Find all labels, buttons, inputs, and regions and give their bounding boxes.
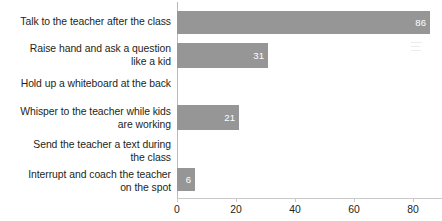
category-label-1: Talk to the teacher after the class: [0, 15, 171, 28]
category-label-6-line-2: on the spot: [0, 181, 171, 194]
x-tick-label-1: 20: [230, 203, 242, 216]
category-label-5: Send the teacher a text during the class: [0, 138, 171, 164]
category-axis-labels: Talk to the teacher after the class Rais…: [0, 0, 171, 198]
x-tick-label-0: 0: [174, 203, 180, 216]
bar-value-label-1: 86: [414, 18, 426, 28]
bar-1: [177, 11, 430, 34]
category-label-4-line-1: Whisper to the teacher while kids: [0, 105, 171, 118]
bar-value-label-2: 31: [252, 51, 264, 61]
x-tick-mark-4: [413, 198, 414, 202]
category-label-4-line-2: are working: [0, 118, 171, 131]
plot-area: 8631216: [177, 0, 442, 198]
bar-value-label-6: 6: [179, 175, 191, 185]
category-label-2-line-2: like a kid: [0, 55, 171, 68]
category-label-4: Whisper to the teacher while kids are wo…: [0, 105, 171, 131]
category-label-5-line-2: the class: [0, 151, 171, 164]
category-label-6-line-1: Interrupt and coach the teacher: [0, 168, 171, 181]
horizontal-bar-chart: Talk to the teacher after the class Rais…: [0, 0, 442, 221]
bar-value-label-4: 21: [223, 113, 235, 123]
category-label-2: Raise hand and ask a question like a kid: [0, 42, 171, 68]
x-tick-label-3: 60: [348, 203, 360, 216]
x-tick-label-2: 40: [289, 203, 301, 216]
category-label-3: Hold up a whiteboard at the back: [0, 77, 171, 90]
category-label-6: Interrupt and coach the teacher on the s…: [0, 168, 171, 194]
scan-artifact: [411, 42, 422, 53]
category-label-1-line-1: Talk to the teacher after the class: [0, 15, 171, 28]
category-label-5-line-1: Send the teacher a text during: [0, 138, 171, 151]
x-tick-mark-1: [236, 198, 237, 202]
x-tick-mark-2: [295, 198, 296, 202]
x-tick-mark-0: [177, 198, 178, 202]
category-label-2-line-1: Raise hand and ask a question: [0, 42, 171, 55]
x-tick-mark-3: [354, 198, 355, 202]
category-label-3-line-1: Hold up a whiteboard at the back: [0, 77, 171, 90]
x-tick-label-4: 80: [407, 203, 419, 216]
x-axis-line: [177, 198, 442, 199]
